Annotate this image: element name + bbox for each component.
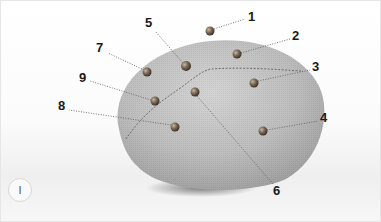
callout-label-5: 5 bbox=[145, 16, 152, 29]
figure-number-badge: I bbox=[8, 178, 32, 202]
pin-7 bbox=[143, 68, 152, 77]
figure-frame: 1 2 3 4 5 6 7 8 9 I bbox=[0, 0, 381, 222]
callout-label-4: 4 bbox=[320, 111, 327, 124]
pin-6 bbox=[191, 88, 200, 97]
pin-3 bbox=[250, 79, 259, 88]
callout-label-2: 2 bbox=[292, 29, 299, 42]
pin-1 bbox=[206, 27, 215, 36]
figure-number: I bbox=[18, 184, 21, 196]
pin-5 bbox=[181, 61, 191, 71]
pin-4 bbox=[259, 127, 268, 136]
callout-label-3: 3 bbox=[312, 60, 319, 73]
callout-label-7: 7 bbox=[96, 41, 103, 54]
callout-label-1: 1 bbox=[248, 10, 255, 23]
callout-label-8: 8 bbox=[58, 99, 65, 112]
callout-label-6: 6 bbox=[273, 184, 280, 197]
callout-label-9: 9 bbox=[79, 71, 86, 84]
pin-8 bbox=[171, 123, 180, 132]
pin-9 bbox=[151, 97, 160, 106]
pin-2 bbox=[233, 50, 242, 59]
